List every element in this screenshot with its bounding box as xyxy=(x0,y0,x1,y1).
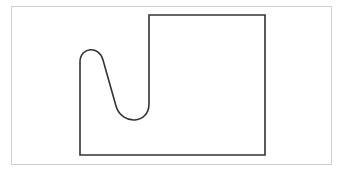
diagram-canvas xyxy=(0,0,344,172)
notched-outline-shape xyxy=(80,15,265,155)
